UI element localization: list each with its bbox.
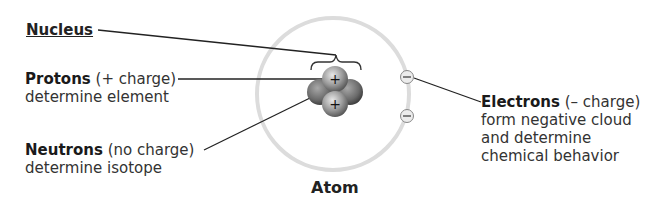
- proton-plus-icon: +: [329, 96, 341, 112]
- electron: [401, 71, 414, 84]
- nucleus: + +: [307, 66, 363, 117]
- electrons-description-line: chemical behavior: [481, 147, 640, 165]
- electrons-description-line: form negative cloud: [481, 111, 640, 129]
- electrons-title: Electrons: [481, 93, 560, 111]
- nucleus-label: Nucleus: [26, 21, 93, 39]
- neutrons-label: Neutrons (no charge) determine isotope: [25, 141, 194, 177]
- proton-plus-icon: +: [329, 71, 341, 87]
- electrons-leader: [414, 78, 481, 102]
- electrons-description-line: and determine: [481, 129, 640, 147]
- neutrons-description: determine isotope: [25, 159, 194, 177]
- protons-charge: (+ charge): [96, 70, 177, 88]
- nucleus-leader: [98, 30, 336, 55]
- neutrons-charge: (no charge): [108, 141, 195, 159]
- electrons-label: Electrons (– charge) form negative cloud…: [481, 93, 640, 165]
- protons-description: determine element: [25, 88, 176, 106]
- atom-title: Atom: [311, 178, 359, 197]
- electrons-charge: (– charge): [565, 93, 641, 111]
- electron: [401, 110, 414, 123]
- neutrons-title: Neutrons: [25, 141, 103, 159]
- protons-title: Protons: [25, 70, 91, 88]
- protons-label: Protons (+ charge) determine element: [25, 70, 176, 106]
